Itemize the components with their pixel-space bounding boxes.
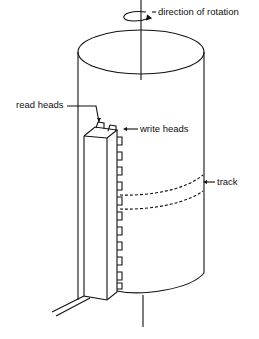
track-line-lower — [120, 191, 203, 209]
drum-memory-diagram: direction of rotation read heads write h… — [0, 0, 259, 339]
track-label: track — [217, 176, 238, 187]
head-assembly — [52, 122, 122, 316]
read-heads-label: read heads — [16, 99, 64, 110]
drum-bottom — [117, 273, 204, 293]
write-heads — [117, 137, 122, 289]
read-heads-leader — [67, 106, 99, 122]
track-line-upper — [120, 175, 203, 195]
rotation-label: direction of rotation — [158, 6, 239, 17]
write-heads-label: write heads — [139, 123, 189, 134]
